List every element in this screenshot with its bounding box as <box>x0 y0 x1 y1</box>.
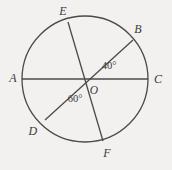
point-label-b: B <box>134 23 142 35</box>
geometry-canvas <box>0 0 172 170</box>
diameter-line-ef <box>68 22 103 141</box>
geometry-figure: A B C D E F O 40° 60° <box>0 0 172 170</box>
point-label-d: D <box>29 125 38 137</box>
angle-label-dof: 60° <box>68 94 83 105</box>
diameter-line-bd <box>45 40 133 120</box>
point-label-a: A <box>9 72 17 84</box>
point-label-c: C <box>154 73 162 85</box>
angle-label-boc: 40° <box>102 61 117 72</box>
point-label-f: F <box>103 147 111 159</box>
point-label-e: E <box>59 5 67 17</box>
center-point-label-o: O <box>90 85 98 97</box>
